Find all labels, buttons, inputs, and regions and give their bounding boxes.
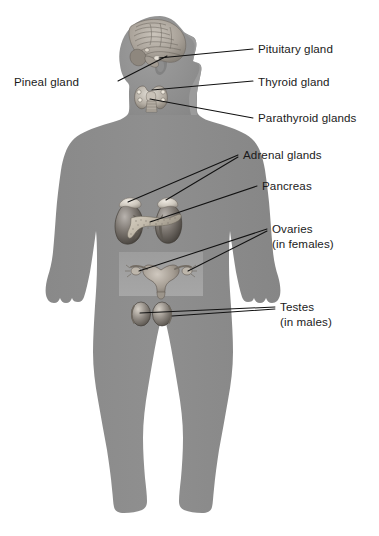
label-ovaries: Ovaries	[272, 222, 313, 235]
ovary-right	[182, 267, 192, 275]
label-thyroid-gland: Thyroid gland	[258, 75, 330, 88]
label-pituitary-gland: Pituitary gland	[258, 42, 333, 55]
label-pineal-gland: Pineal gland	[14, 75, 79, 88]
trachea	[146, 101, 157, 112]
cervix	[157, 292, 165, 299]
label-testes: Testes	[280, 300, 314, 313]
parathyroid-gland-marker	[137, 90, 141, 94]
label-testes-qualifier: (in males)	[280, 315, 332, 328]
uterus-with-ovaries	[119, 252, 203, 299]
endocrine-system-diagram: Pineal gland Pituitary gland Thyroid gla…	[0, 0, 379, 536]
cerebellum	[130, 49, 146, 66]
parathyroid-gland-marker	[138, 98, 142, 102]
label-pancreas: Pancreas	[262, 179, 312, 192]
label-ovaries-qualifier: (in females)	[272, 237, 334, 250]
parathyroid-gland-marker	[161, 90, 165, 94]
pineal-gland-marker	[145, 48, 150, 52]
endocrine-diagram-page: Pineal gland Pituitary gland Thyroid gla…	[0, 0, 379, 536]
label-adrenal-glands: Adrenal glands	[243, 148, 322, 161]
label-parathyroid-glands: Parathyroid glands	[258, 111, 357, 124]
